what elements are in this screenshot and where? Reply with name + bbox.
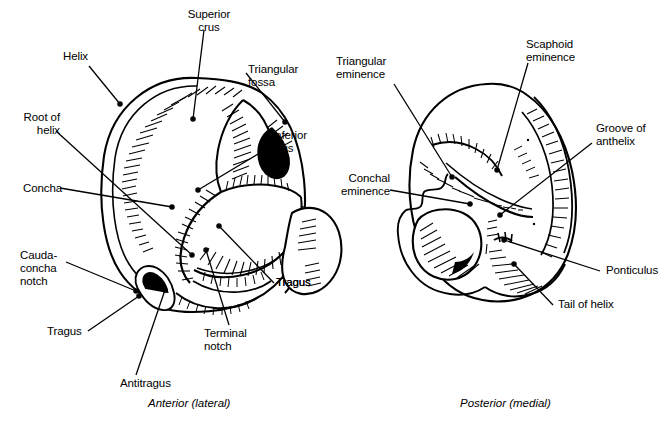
label-scaphoid-eminence: Scaphoid eminence bbox=[526, 38, 608, 64]
label-terminal-notch: Terminal notch bbox=[204, 327, 268, 353]
label-tragus-text: Tragus bbox=[276, 276, 328, 289]
label-concha: Concha bbox=[0, 182, 62, 195]
label-triangular-eminence: Triangular eminence bbox=[336, 55, 418, 81]
label-cauda-concha-notch: Cauda- concha notch bbox=[20, 249, 86, 288]
label-superior-crus: Superior crus bbox=[172, 8, 246, 34]
ear-anatomy-figure: Helix Superior crus Triangular fossa Roo… bbox=[0, 0, 668, 429]
posterior-ear-drawing bbox=[390, 63, 600, 305]
label-tail-of-helix: Tragus bbox=[47, 325, 105, 338]
label-conchal-eminence: Conchal eminence bbox=[310, 172, 390, 198]
ear-diagram-artwork bbox=[0, 0, 668, 429]
label-triangular-fossa: Triangular fossa bbox=[248, 63, 326, 89]
label-root-of-helix: Root of helix bbox=[0, 111, 60, 137]
label-groove-of-anthelix: Groove of anthelix bbox=[596, 122, 668, 148]
label-antitragus: Antitragus bbox=[120, 377, 202, 390]
caption-anterior: Anterior (lateral) bbox=[148, 397, 230, 409]
label-tail-of-helix-posterior: Tail of helix bbox=[558, 298, 638, 311]
label-helix: Helix bbox=[20, 50, 88, 63]
label-inferior-crus: Inferior crus bbox=[272, 129, 334, 155]
label-ponticulus: Ponticulus bbox=[606, 264, 668, 277]
caption-posterior: Posterior (medial) bbox=[460, 397, 551, 409]
